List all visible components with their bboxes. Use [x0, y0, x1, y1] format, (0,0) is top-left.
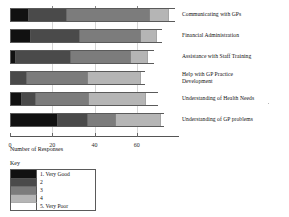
plot-area: 0204060	[10, 6, 179, 137]
bar-segment	[156, 30, 165, 42]
legend-swatch	[11, 194, 37, 202]
bar-segment	[11, 9, 28, 21]
legend-swatch	[11, 186, 37, 194]
legend-swatch	[11, 170, 37, 178]
legend-swatch	[11, 202, 37, 210]
stacked-bar	[10, 71, 145, 85]
bar-segment	[87, 72, 140, 84]
x-tick	[137, 133, 138, 137]
legend-label: 3	[37, 186, 43, 194]
x-tick	[10, 133, 11, 137]
legend-swatch	[11, 178, 37, 186]
bar-segment	[140, 30, 156, 42]
x-tick	[52, 133, 53, 137]
legend-row: 2	[11, 178, 95, 186]
category-label: Communicating with GPs	[182, 11, 241, 18]
bar-segment	[115, 114, 160, 126]
bar-segment	[168, 9, 177, 21]
bar-segment	[11, 30, 30, 42]
stacked-bar	[10, 29, 162, 43]
bar-segment	[26, 72, 87, 84]
bar-segment	[87, 114, 115, 126]
category-label: Understanding of GP problems	[182, 116, 253, 123]
category-label: Financial Administration	[182, 32, 239, 39]
legend-label: 2	[37, 178, 43, 186]
bar-segment	[88, 93, 145, 105]
bar-segment	[21, 93, 35, 105]
legend-box: 1. Very Good2345. Very Poor	[10, 169, 96, 211]
bar-segment	[147, 51, 156, 63]
bar-segment	[11, 93, 21, 105]
stacked-bar	[10, 8, 175, 22]
bar-segment	[66, 9, 148, 21]
stacked-bar	[10, 50, 154, 64]
legend-row: 1. Very Good	[11, 170, 95, 178]
category-label: Help with GP Practice Development	[182, 71, 233, 84]
bar-segment	[140, 72, 147, 84]
stacked-bar	[10, 113, 164, 127]
bar-segment	[79, 30, 140, 42]
bar-segment	[15, 51, 70, 63]
bar-segment	[35, 93, 88, 105]
legend-title: Key	[10, 160, 96, 167]
bar-segment	[160, 114, 167, 126]
stacked-bar-chart: 0204060 Communicating with GPsFinancial …	[0, 0, 289, 217]
x-axis-title: Number of Responses	[10, 146, 63, 153]
bar-segment	[70, 51, 129, 63]
legend: Key 1. Very Good2345. Very Poor	[10, 160, 96, 211]
legend-row: 3	[11, 186, 95, 194]
stacked-bar	[10, 92, 158, 106]
x-tick-label: 60	[134, 142, 140, 149]
bar-segment	[11, 72, 26, 84]
bar-segment	[130, 51, 148, 63]
bar-segment	[57, 114, 87, 126]
bar-segment	[30, 30, 79, 42]
legend-row: 4	[11, 194, 95, 202]
bar-segment	[11, 114, 57, 126]
legend-label: 5. Very Poor	[37, 202, 68, 210]
x-tick-label: 40	[92, 142, 98, 149]
scan-artifact	[268, 103, 269, 104]
bar-segment	[28, 9, 67, 21]
legend-row: 5. Very Poor	[11, 202, 95, 210]
bar-segment	[149, 9, 169, 21]
bar-segment	[145, 93, 161, 105]
category-label: Understanding of Health Needs	[182, 95, 254, 102]
x-tick	[95, 133, 96, 137]
legend-label: 4	[37, 194, 43, 202]
legend-label: 1. Very Good	[37, 170, 70, 178]
category-label: Assistance with Staff Training	[182, 53, 251, 60]
